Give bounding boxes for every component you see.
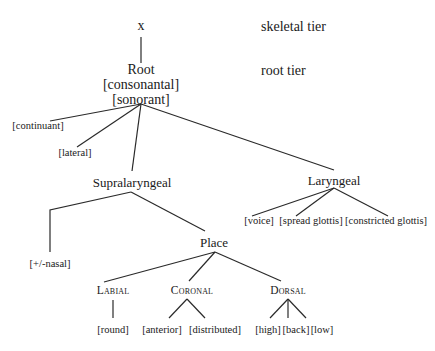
node-round: [round]	[97, 325, 129, 336]
edge-root-laryngeal	[141, 104, 334, 170]
edge-root-supralaryngeal	[132, 104, 141, 171]
edge-dorsal-high	[270, 299, 288, 318]
node-low: [low]	[311, 325, 334, 336]
edge-supralaryngeal-place	[131, 192, 205, 231]
edge-coronal-distributed	[187, 299, 205, 318]
node-continuant: [continuant]	[12, 121, 63, 132]
node-place: Place	[200, 236, 228, 249]
node-anterior: [anterior]	[142, 325, 182, 336]
node-back: [back]	[283, 325, 310, 336]
edge-coronal-anterior	[169, 299, 187, 318]
edge-laryngeal-constricted	[334, 188, 388, 216]
node-nasal: [+/-nasal]	[30, 259, 71, 270]
edge-laryngeal-spread	[296, 188, 334, 216]
tree-edges	[0, 0, 435, 351]
node-lateral: [lateral]	[58, 148, 91, 159]
node-root-sonorant: [sonorant]	[112, 93, 170, 107]
edge-laryngeal-voice	[252, 188, 334, 216]
node-voice: [voice]	[244, 216, 274, 227]
feature-geometry-diagram: skeletal tier root tier x Root [consonan…	[0, 0, 435, 351]
root-tier-label: root tier	[261, 64, 306, 78]
edge-place-labial	[104, 252, 215, 282]
edge-dorsal-low	[288, 299, 306, 318]
skeletal-tier-label: skeletal tier	[261, 20, 326, 34]
node-constricted-glottis: [constricted glottis]	[345, 216, 427, 227]
node-high: [high]	[255, 325, 281, 336]
node-labial: Labial	[97, 285, 130, 297]
node-root: Root	[127, 63, 154, 77]
node-distributed: [distributed]	[189, 325, 241, 336]
edge-place-dorsal	[215, 252, 281, 281]
node-coronal: Coronal	[171, 285, 213, 297]
node-laryngeal: Laryngeal	[308, 174, 361, 187]
node-supralaryngeal: Supralaryngeal	[93, 176, 172, 189]
node-root-consonantal: [consonantal]	[103, 78, 179, 92]
edge-supralaryngeal-nasal	[50, 192, 131, 252]
node-spread-glottis: [spread glottis]	[279, 216, 342, 227]
edge-place-coronal	[189, 252, 215, 281]
node-skeletal-x: x	[138, 19, 145, 33]
node-dorsal: Dorsal	[270, 285, 306, 297]
